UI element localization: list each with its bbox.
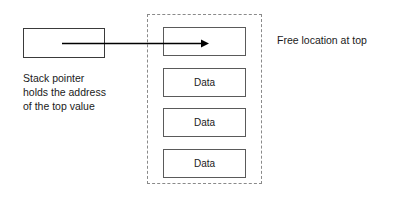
caption-line-1: Stack pointer: [23, 71, 153, 85]
caption-line-2: holds the address: [23, 85, 153, 99]
pointer-arrow-icon: [58, 34, 214, 54]
caption-line-3: of the top value: [23, 99, 153, 113]
stack-cell-label: Data: [194, 78, 215, 88]
stack-pointer-caption: Stack pointer holds the address of the t…: [23, 71, 153, 114]
stack-cell-label: Data: [194, 159, 215, 169]
stack-cell-data-2: Data: [163, 108, 246, 137]
stack-cell-label: Data: [194, 118, 215, 128]
stack-cell-data-1: Data: [163, 68, 246, 97]
stack-diagram: Stack pointer holds the address of the t…: [0, 0, 399, 199]
free-location-note: Free location at top: [277, 34, 367, 47]
stack-cell-data-3: Data: [163, 149, 246, 178]
